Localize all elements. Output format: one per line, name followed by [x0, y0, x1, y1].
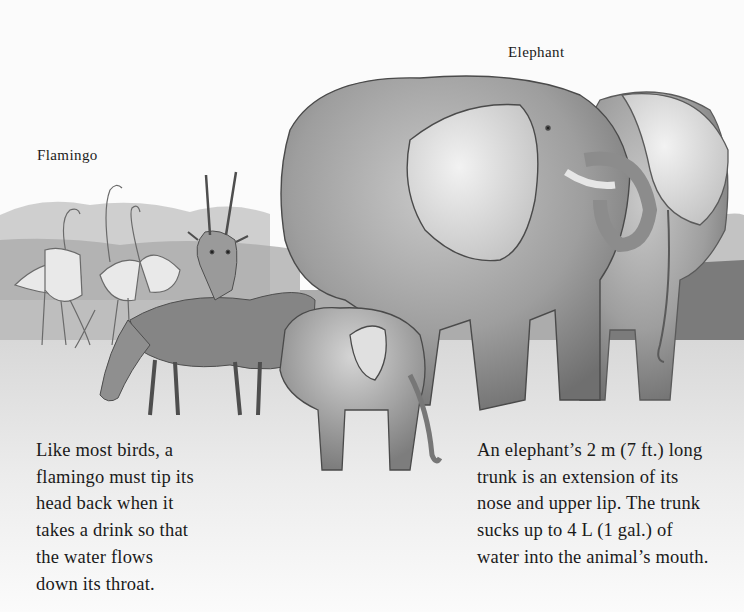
- caption-line: water into the animal’s mouth.: [477, 544, 744, 571]
- caption-line: An elephant’s 2 m (7 ft.) long: [477, 437, 744, 464]
- elephant-label: Elephant: [508, 44, 565, 61]
- caption-line: nose and upper lip. The trunk: [477, 490, 744, 517]
- elephant-caption: An elephant’s 2 m (7 ft.) long trunk is …: [477, 437, 744, 571]
- caption-line: takes a drink so that: [36, 517, 276, 544]
- caption-line: sucks up to 4 L (1 gal.) of: [477, 517, 744, 544]
- caption-line: the water flows: [36, 544, 276, 571]
- caption-line: flamingo must tip its: [36, 464, 276, 491]
- caption-line: Like most birds, a: [36, 437, 276, 464]
- book-page: Elephant Flamingo Like most birds, a fla…: [0, 0, 744, 612]
- caption-line: down its throat.: [36, 571, 276, 598]
- caption-line: head back when it: [36, 490, 276, 517]
- caption-line: trunk is an extension of its: [477, 464, 744, 491]
- flamingo-caption: Like most birds, a flamingo must tip its…: [36, 437, 276, 597]
- flamingo-label: Flamingo: [37, 147, 98, 164]
